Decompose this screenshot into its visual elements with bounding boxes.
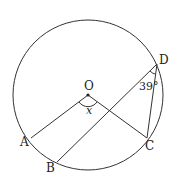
label-o: O: [84, 79, 94, 93]
angle-arc-39: [150, 71, 155, 74]
segment-oa: [31, 95, 88, 138]
angle-label-x: x: [86, 104, 93, 117]
label-d: D: [159, 53, 169, 67]
label-b: B: [46, 161, 55, 175]
geometry-diagram: O A B C D x 39°: [0, 0, 179, 181]
center-point: [86, 93, 89, 96]
segment-oc: [88, 95, 147, 138]
angle-label-39: 39°: [139, 80, 159, 93]
label-c: C: [145, 139, 154, 153]
label-a: A: [19, 135, 29, 149]
